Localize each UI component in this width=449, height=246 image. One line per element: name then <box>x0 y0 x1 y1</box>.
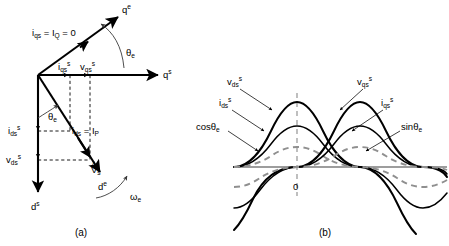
pointer-cos-theta-e <box>228 131 258 151</box>
label-iqs-zero: iqs = IQ = 0 <box>32 27 76 40</box>
label-axis-ds: ds <box>31 200 40 212</box>
label-b-zero: 0 <box>293 181 298 192</box>
label-ids-ip: ids = IP <box>72 125 100 137</box>
label-ids-s: idss <box>8 124 21 137</box>
label-b-vqs-s: vqss <box>357 75 373 89</box>
pointer-vds-s <box>240 89 272 110</box>
label-b-cos-theta-e: cosθe <box>196 121 220 133</box>
waveform-vds-s <box>234 102 416 234</box>
label-axis-de: de <box>98 180 107 192</box>
label-vs-hat: Vs <box>91 164 101 176</box>
pointer-vqs-s <box>340 89 363 110</box>
label-axis-qe: qe <box>122 3 131 15</box>
label-theta-e-lower: θe <box>48 111 57 123</box>
label-b-iqs-s: iqss <box>381 96 394 110</box>
caption-panel-b: (b) <box>319 227 331 238</box>
label-omega-e: ωe <box>130 191 141 203</box>
label-iqs-s: iqss <box>58 60 71 74</box>
label-axis-qs: qs <box>163 68 172 80</box>
label-b-ids-s: idss <box>219 96 232 109</box>
label-b-sin-theta-e: sinθe <box>401 121 422 133</box>
label-vqs-s: vqss <box>80 60 96 74</box>
panel-a-vector-diagram: iqs = IQ = 0 qe qs θe iqss vqss θe idss … <box>0 0 449 246</box>
label-theta-e-upper: θe <box>126 47 135 59</box>
theta-e-arc-upper <box>101 24 124 68</box>
axis-de-vector <box>38 75 100 172</box>
figure-container: iqs = IQ = 0 qe qs θe iqss vqss θe idss … <box>0 0 449 246</box>
pointer-ids-s <box>232 110 264 131</box>
axis-qe-vector <box>38 17 118 75</box>
caption-panel-a: (a) <box>75 227 87 238</box>
label-b-vds-s: vdss <box>227 75 243 88</box>
vs-hat-arrow <box>78 138 90 157</box>
label-vds-s: vdss <box>6 153 22 166</box>
